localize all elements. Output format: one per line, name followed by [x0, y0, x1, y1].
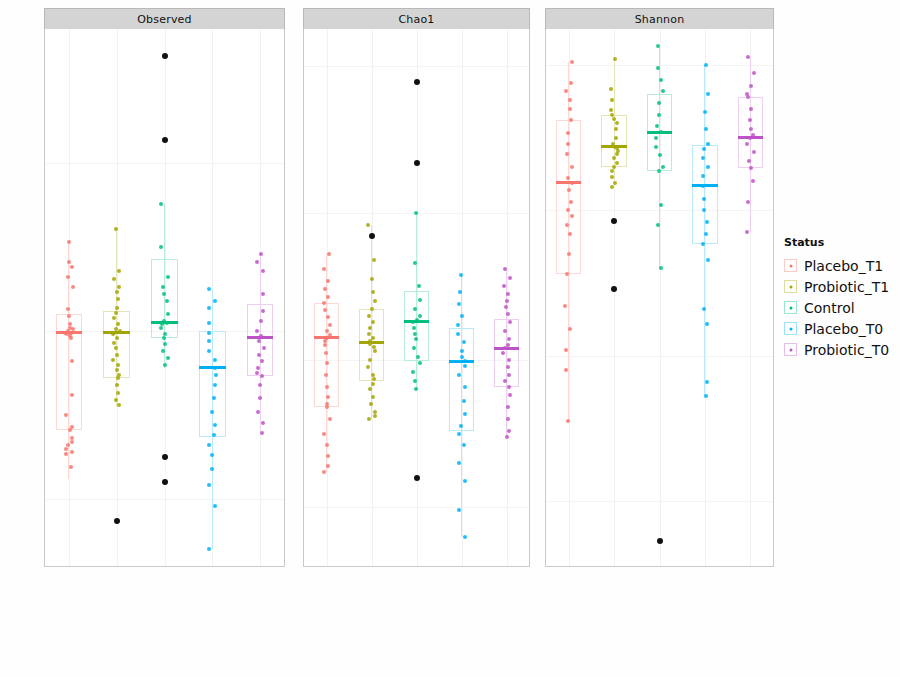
data-point: [372, 345, 376, 349]
data-point: [166, 275, 170, 279]
data-point: [570, 214, 574, 218]
data-point: [501, 351, 505, 355]
data-point: [413, 307, 417, 311]
data-point: [706, 92, 710, 96]
data-point: [506, 365, 510, 369]
data-point: [371, 382, 375, 386]
legend-swatch: [784, 280, 797, 293]
data-point: [704, 127, 708, 131]
data-point: [615, 121, 619, 125]
data-point: [261, 292, 265, 296]
data-point: [614, 127, 618, 131]
data-point: [325, 405, 329, 409]
legend-items: Placebo_T1Probiotic_T1ControlPlacebo_T0P…: [784, 255, 889, 360]
data-point: [706, 165, 710, 169]
data-point: [256, 410, 260, 414]
data-point: [506, 343, 510, 347]
plot-area-chao1: 100200300400Placebo_T1Probiotic_T1Contro…: [303, 29, 530, 567]
data-point: [69, 336, 73, 340]
legend-swatch: [784, 301, 797, 314]
figure-root: Alpha Diversity Measure Observed10020030…: [0, 0, 900, 677]
x-tick-mark: [165, 566, 166, 567]
legend-item-control: Control: [784, 297, 889, 318]
data-point: [255, 371, 259, 375]
outlier-point: [414, 79, 420, 85]
data-point: [115, 306, 119, 310]
data-point: [165, 299, 169, 303]
data-point: [207, 306, 211, 310]
data-point: [613, 57, 617, 61]
data-point: [213, 504, 217, 508]
x-tick-mark: [372, 566, 373, 567]
data-point: [655, 124, 659, 128]
data-point: [412, 346, 416, 350]
data-point: [159, 326, 163, 330]
legend-swatch: [784, 343, 797, 356]
data-point: [117, 269, 121, 273]
data-point: [322, 432, 326, 436]
data-point: [210, 467, 214, 471]
data-point: [615, 152, 619, 156]
data-point: [159, 245, 163, 249]
data-point: [746, 95, 750, 99]
data-point: [114, 398, 118, 402]
data-point: [371, 395, 375, 399]
data-point: [659, 78, 663, 82]
data-point: [570, 60, 574, 64]
data-point: [260, 431, 264, 435]
data-point: [414, 337, 418, 341]
data-point: [368, 387, 372, 391]
data-point: [459, 273, 463, 277]
data-point: [159, 202, 163, 206]
data-point: [418, 314, 422, 318]
data-point: [68, 428, 72, 432]
y-tick-mark: [44, 331, 45, 332]
data-point: [322, 267, 326, 271]
data-point: [207, 349, 211, 353]
y-tick-mark: [545, 65, 546, 66]
data-point: [213, 358, 217, 362]
outlier-point: [369, 233, 375, 239]
data-point: [328, 417, 332, 421]
data-point: [367, 314, 371, 318]
data-point: [414, 387, 418, 391]
data-point: [259, 334, 263, 338]
data-point: [614, 136, 618, 140]
data-point: [568, 232, 572, 236]
outlier-point: [611, 218, 617, 224]
data-point: [745, 230, 749, 234]
data-point: [111, 332, 115, 336]
data-point: [326, 295, 330, 299]
data-point: [112, 277, 116, 281]
legend-item-placebo_t0: Placebo_T0: [784, 318, 889, 339]
data-point: [371, 373, 375, 377]
data-point: [457, 302, 461, 306]
data-point: [656, 66, 660, 70]
data-point: [658, 153, 662, 157]
y-tick-mark: [545, 210, 546, 211]
data-point: [259, 319, 263, 323]
y-tick-mark: [44, 498, 45, 499]
data-point: [503, 379, 507, 383]
data-point: [117, 403, 121, 407]
data-point: [659, 266, 663, 270]
data-point: [323, 343, 327, 347]
data-point: [115, 383, 119, 387]
data-point: [459, 424, 463, 428]
data-point: [261, 309, 265, 313]
data-point: [507, 358, 511, 362]
legend-item-label: Probiotic_T1: [804, 279, 889, 295]
data-point: [373, 410, 377, 414]
data-point: [162, 336, 166, 340]
data-point: [746, 55, 750, 59]
data-point: [322, 470, 326, 474]
legend-item-label: Probiotic_T0: [804, 342, 889, 358]
median-line: [103, 331, 130, 334]
data-point: [507, 337, 511, 341]
data-point: [701, 174, 705, 178]
x-tick-mark: [462, 566, 463, 567]
y-tick-mark: [303, 65, 304, 66]
outlier-point: [414, 160, 420, 166]
data-point: [413, 261, 417, 265]
y-tick-mark: [303, 360, 304, 361]
